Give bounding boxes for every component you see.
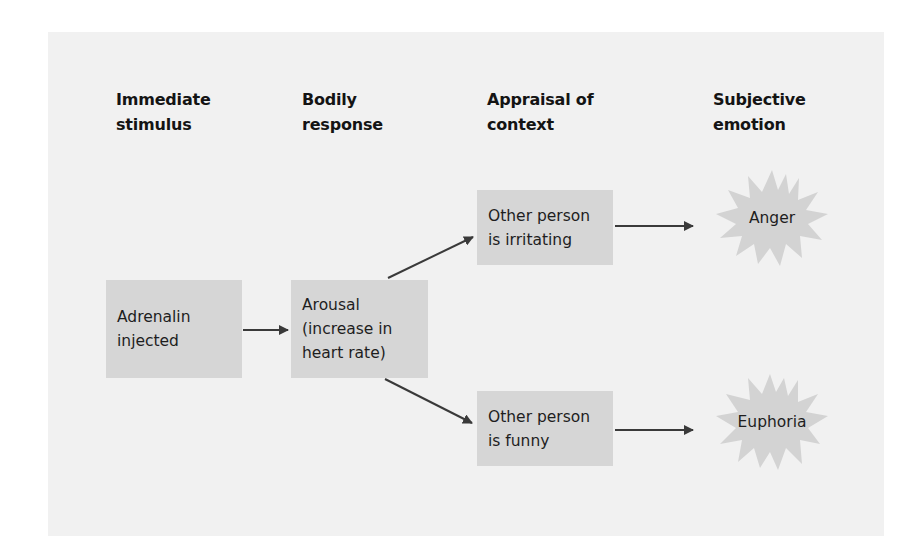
arrow-arousal-to-irritating bbox=[388, 237, 473, 278]
arrow-arousal-to-funny bbox=[385, 379, 472, 423]
arrows-layer bbox=[0, 0, 924, 560]
